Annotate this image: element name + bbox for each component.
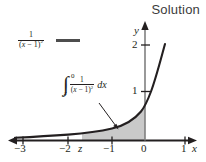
integral-sign: ∫ 0 z: [63, 76, 69, 94]
integral-annotation: ∫ 0 z 1 (x − 1)2 dx: [63, 76, 107, 94]
x-tick-label-z: z: [78, 142, 82, 154]
legend-line-swatch: [56, 39, 80, 42]
legend-formula: 1 (x − 1)2: [18, 31, 44, 50]
y-axis-label: y: [134, 24, 139, 36]
x-tick-label-neg3: −3: [14, 142, 26, 154]
integral-lower-limit: z: [64, 91, 67, 97]
y-axis-arrow: [141, 21, 148, 30]
differential-dx: dx: [97, 80, 106, 90]
integral-upper-limit: 0: [71, 74, 75, 80]
x-tick-label-neg1: −1: [103, 142, 115, 154]
legend-numerator: 1: [18, 31, 44, 39]
legend: 1 (x − 1)2: [18, 31, 80, 50]
y-tick-label-2: 2: [132, 38, 138, 50]
annotation-leader-line: [99, 103, 117, 128]
x-tick-label-neg2: −2: [59, 142, 71, 154]
x-tick-label-1: 1: [181, 142, 187, 154]
x-axis-label: x: [192, 142, 197, 154]
legend-denominator: (x − 1)2: [18, 41, 44, 49]
x-tick-label-0: 0: [141, 142, 147, 154]
solution-figure: Solution: [0, 0, 206, 162]
y-tick-label-1: 1: [132, 84, 138, 96]
integrand-denominator: (x − 1)2: [70, 86, 94, 94]
shaded-area: [82, 108, 145, 141]
